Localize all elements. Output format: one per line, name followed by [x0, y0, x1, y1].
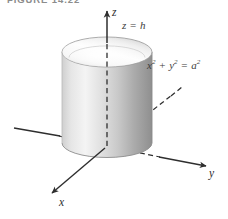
cylinder-diagram-canvas: [0, 0, 228, 219]
plane-equation-rhs: h: [140, 19, 146, 31]
y-axis-label: y: [209, 167, 214, 179]
figure-container: FIGURE 14.22: [0, 0, 228, 219]
x-axis-label: x: [59, 196, 64, 208]
cylinder-equation-term2-exponent: 2: [174, 58, 178, 66]
plane-equation-lhs: z: [122, 19, 126, 31]
cylinder-equation-label: x2 + y2 = a2: [147, 59, 200, 71]
x-axis-negative-ray[interactable]: [171, 87, 182, 96]
plane-equation-label: z = h: [122, 19, 146, 31]
z-axis-label: z: [112, 6, 116, 18]
cylinder-equation-rhs-exponent: 2: [197, 58, 201, 66]
y-axis[interactable]: [159, 157, 206, 166]
y-axis-negative-ray[interactable]: [14, 128, 60, 136]
x-axis[interactable]: [52, 148, 105, 193]
cylinder-equation-term1-exponent: 2: [152, 58, 156, 66]
cylinder-equation-equals: =: [180, 59, 188, 71]
cylinder-equation-plus: +: [158, 59, 166, 71]
plane-equation-operator: =: [129, 19, 137, 31]
